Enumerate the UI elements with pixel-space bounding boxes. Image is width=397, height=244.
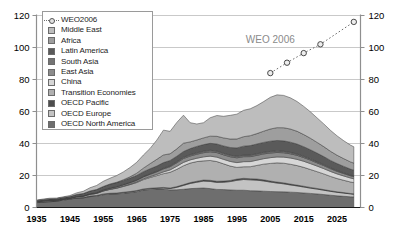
y-tick-label-left: 100: [14, 42, 30, 53]
legend-marker-weo2006-icon: [48, 17, 55, 24]
legend-swatch-icon: [48, 89, 55, 96]
y-tick-label-right: 20: [369, 170, 380, 181]
y-tick-label-right: 120: [369, 10, 385, 21]
x-tick-label: 1955: [93, 214, 113, 224]
legend-item[interactable]: East Asia: [48, 67, 152, 77]
legend-swatch-icon: [48, 27, 55, 34]
legend-item-label: Transition Economies: [61, 88, 136, 98]
legend-item-label: Latin America: [61, 46, 108, 56]
legend-item-label: East Asia: [61, 67, 93, 77]
legend-item-label: OECD Pacific: [61, 98, 109, 108]
projection-marker: [318, 42, 323, 47]
legend-item[interactable]: OECD North America: [48, 119, 152, 129]
y-tick-label-left: 20: [19, 170, 30, 181]
x-tick-label: 1935: [26, 214, 46, 224]
x-tick-label: 1985: [193, 214, 213, 224]
x-tick-label: 2015: [294, 214, 314, 224]
projection-marker: [284, 60, 289, 65]
legend-item[interactable]: Africa: [48, 36, 152, 46]
y-tick-label-right: 60: [369, 106, 380, 117]
legend-item[interactable]: Transition Economies: [48, 88, 152, 98]
projection-marker: [351, 19, 356, 24]
legend-item[interactable]: China: [48, 77, 152, 87]
legend-swatch-icon: [48, 110, 55, 117]
legend-swatch-icon: [48, 121, 55, 128]
legend-swatch-icon: [48, 58, 55, 65]
y-tick-label-left: 120: [14, 10, 30, 21]
legend-swatch-icon: [48, 79, 55, 86]
x-tick-label: 2005: [260, 214, 280, 224]
chart-annotation: WEO 2006: [246, 34, 295, 45]
legend-item-label: South Asia: [61, 57, 98, 67]
y-tick-label-right: 100: [369, 42, 385, 53]
y-tick-label-left: 0: [24, 202, 29, 213]
x-tick-label: 1975: [160, 214, 180, 224]
y-tick-label-left: 40: [19, 138, 30, 149]
legend-swatch-icon: [48, 37, 55, 44]
y-tick-label-left: 60: [19, 106, 30, 117]
legend-item[interactable]: Latin America: [48, 46, 152, 56]
legend-swatch-icon: [48, 48, 55, 55]
legend-item[interactable]: South Asia: [48, 57, 152, 67]
x-tick-label: 1945: [60, 214, 80, 224]
legend-item-label: Middle East: [61, 25, 102, 35]
chart-container: 0020204040606080801001001201201935194519…: [0, 0, 397, 244]
x-tick-label: 2025: [327, 214, 347, 224]
legend-item-label: WEO2006: [61, 15, 97, 25]
y-tick-label-right: 0: [369, 202, 374, 213]
chart-legend: WEO2006Middle EastAfricaLatin AmericaSou…: [42, 11, 153, 130]
legend-item-label: OECD North America: [61, 119, 135, 129]
legend-item[interactable]: WEO2006: [48, 15, 152, 25]
projection-marker: [301, 50, 306, 55]
annotations-group: WEO 2006: [246, 34, 295, 45]
legend-item-label: China: [61, 77, 81, 87]
legend-swatch-icon: [48, 100, 55, 107]
legend-item[interactable]: Middle East: [48, 25, 152, 35]
y-tick-label-right: 80: [369, 74, 380, 85]
y-tick-label-right: 40: [369, 138, 380, 149]
legend-item-label: OECD Europe: [61, 109, 111, 119]
legend-item-label: Africa: [61, 36, 81, 46]
legend-swatch-icon: [48, 69, 55, 76]
legend-item[interactable]: OECD Europe: [48, 109, 152, 119]
y-tick-label-left: 80: [19, 74, 30, 85]
x-tick-label: 1965: [127, 214, 147, 224]
legend-item[interactable]: OECD Pacific: [48, 98, 152, 108]
projection-marker: [268, 70, 273, 75]
x-tick-label: 1995: [227, 214, 247, 224]
